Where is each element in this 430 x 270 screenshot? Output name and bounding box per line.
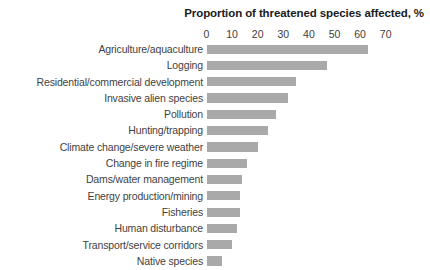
category-label: Change in fire regime: [106, 156, 203, 172]
category-label: Fisheries: [162, 205, 203, 221]
x-tick-label: 60: [354, 28, 366, 40]
category-label: Residential/commercial development: [37, 75, 203, 91]
bar: [207, 142, 258, 151]
category-label: Agriculture/aquaculture: [98, 42, 203, 58]
bar-row: Human disturbance: [0, 221, 430, 237]
chart-title: Proportion of threatened species affecte…: [0, 7, 424, 19]
x-tick-label: 10: [226, 28, 238, 40]
bar: [207, 159, 248, 168]
bar-row: Native species: [0, 254, 430, 270]
bar-track: [207, 224, 238, 233]
bar-track: [207, 45, 368, 54]
bar-row: Transport/service corridors: [0, 238, 430, 254]
bar: [207, 110, 276, 119]
x-tick-label: 0: [204, 28, 210, 40]
bar-track: [207, 93, 289, 102]
bar-track: [207, 256, 222, 265]
bar-track: [207, 77, 297, 86]
bar-row: Change in fire regime: [0, 156, 430, 172]
category-label: Hunting/trapping: [128, 123, 203, 139]
bar-row: Logging: [0, 58, 430, 74]
bar-row: Invasive alien species: [0, 91, 430, 107]
bar-row: Hunting/trapping: [0, 123, 430, 139]
bar-track: [207, 175, 243, 184]
bar: [207, 45, 368, 54]
category-label: Human disturbance: [115, 221, 204, 237]
bar-track: [207, 110, 276, 119]
bar: [207, 224, 238, 233]
category-label: Pollution: [164, 107, 203, 123]
x-tick-label: 70: [380, 28, 392, 40]
bar-track: [207, 159, 248, 168]
bar-track: [207, 126, 268, 135]
bar-track: [207, 61, 327, 70]
bar-track: [207, 208, 240, 217]
bar-row: Fisheries: [0, 205, 430, 221]
x-tick-label: 20: [252, 28, 264, 40]
bar: [207, 240, 233, 249]
bar: [207, 61, 327, 70]
bar-row: Climate change/severe weather: [0, 140, 430, 156]
bar-track: [207, 240, 233, 249]
bar: [207, 93, 289, 102]
bar: [207, 256, 222, 265]
category-label: Climate change/severe weather: [60, 140, 203, 156]
category-label: Transport/service corridors: [83, 238, 203, 254]
x-tick-label: 30: [277, 28, 289, 40]
x-axis-tick-labels: 010203040506070: [0, 28, 430, 42]
category-label: Invasive alien species: [104, 91, 203, 107]
bar-row: Pollution: [0, 107, 430, 123]
bar: [207, 191, 240, 200]
x-tick-label: 40: [303, 28, 315, 40]
bar: [207, 126, 268, 135]
bar: [207, 175, 243, 184]
category-label: Energy production/mining: [88, 189, 203, 205]
category-label: Native species: [137, 254, 203, 270]
bar-track: [207, 191, 240, 200]
bar: [207, 77, 297, 86]
bar: [207, 208, 240, 217]
bar-row: Residential/commercial development: [0, 75, 430, 91]
bar-row: Dams/water management: [0, 172, 430, 188]
bar-rows: Agriculture/aquacultureLoggingResidentia…: [0, 42, 430, 270]
bar-track: [207, 142, 258, 151]
category-label: Dams/water management: [86, 172, 203, 188]
bar-row: Agriculture/aquaculture: [0, 42, 430, 58]
category-label: Logging: [167, 58, 203, 74]
bar-row: Energy production/mining: [0, 189, 430, 205]
bar-chart: Proportion of threatened species affecte…: [0, 0, 430, 270]
x-tick-label: 50: [329, 28, 341, 40]
